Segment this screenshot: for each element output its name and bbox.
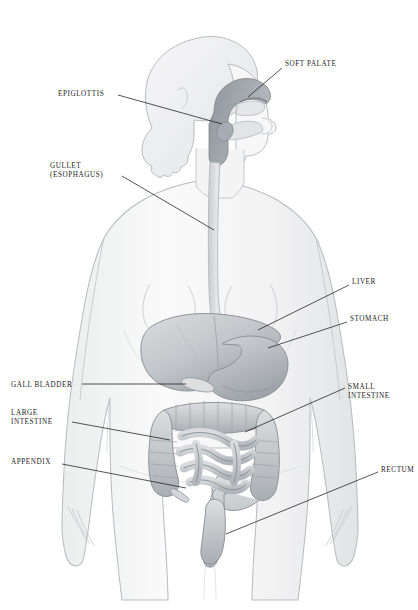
label-large-intestine: LARGEINTESTINE [11, 409, 53, 428]
label-small-intestine: SMALLINTESTINE [348, 383, 390, 402]
head [142, 37, 276, 199]
label-rectum-line: RECTUM [381, 466, 414, 475]
label-gullet: GULLET(ESOPHAGUS) [50, 162, 103, 181]
label-appendix: APPENDIX [11, 458, 51, 467]
label-soft-palate: SOFT PALATE [285, 60, 336, 69]
label-small-intestine-line: INTESTINE [348, 392, 390, 401]
organ-rectum [201, 499, 226, 564]
label-rectum: RECTUM [381, 466, 414, 475]
label-gullet-line: GULLET [50, 162, 103, 171]
label-liver-line: LIVER [352, 278, 376, 287]
label-stomach: STOMACH [350, 315, 389, 324]
nasal-cavity [236, 101, 265, 116]
label-small-intestine-line: SMALL [348, 383, 390, 392]
label-epiglottis-line: EPIGLOTTIS [58, 90, 104, 99]
label-liver: LIVER [352, 278, 376, 287]
label-gullet-line: (ESOPHAGUS) [50, 171, 103, 180]
label-soft-palate-line: SOFT PALATE [285, 60, 336, 69]
label-stomach-line: STOMACH [350, 315, 389, 324]
label-gall-bladder: GALL BLADDER [11, 381, 72, 390]
organ-appendix [170, 488, 189, 502]
label-epiglottis: EPIGLOTTIS [58, 90, 104, 99]
label-large-intestine-line: INTESTINE [11, 418, 53, 427]
label-gall-bladder-line: GALL BLADDER [11, 381, 72, 390]
label-large-intestine-line: LARGE [11, 409, 53, 418]
digestive-system-diagram: SOFT PALATEEPIGLOTTISGULLET(ESOPHAGUS)LI… [0, 0, 418, 610]
label-appendix-line: APPENDIX [11, 458, 51, 467]
